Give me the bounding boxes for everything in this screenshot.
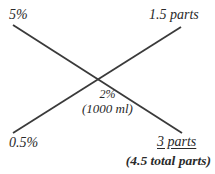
total-parts-label: (4.5 total parts) xyxy=(0,154,211,168)
alligation-diagram: 5% 1.5 parts 2% (1000 ml) 0.5% 3 parts (… xyxy=(0,0,215,174)
descending-line xyxy=(13,25,182,133)
center-strength-label: 2% xyxy=(0,88,215,100)
top-right-parts-label: 1.5 parts xyxy=(149,8,199,22)
top-left-concentration-label: 5% xyxy=(9,8,28,22)
center-volume-label: (1000 ml) xyxy=(0,102,215,115)
ascending-line xyxy=(13,27,181,133)
bottom-right-parts-label: 3 parts xyxy=(157,135,196,149)
bottom-left-concentration-label: 0.5% xyxy=(9,136,38,150)
